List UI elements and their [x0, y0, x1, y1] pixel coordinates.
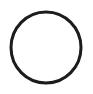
background-rect: [0, 0, 93, 94]
circle-figure: [0, 0, 93, 94]
image-canvas: Circle: [0, 0, 93, 94]
